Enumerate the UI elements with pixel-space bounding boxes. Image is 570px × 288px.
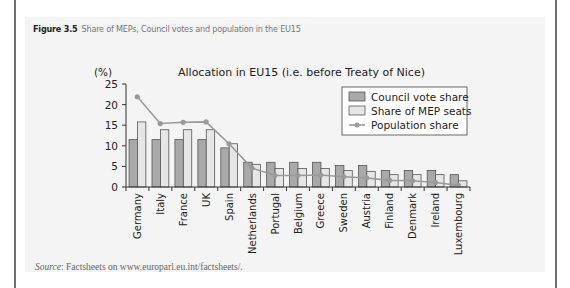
population-marker [295,173,300,178]
council-bar [152,140,160,187]
x-category-label: UK [201,193,212,207]
legend-swatch-council [349,92,365,101]
source-label: Source [35,262,61,272]
x-category-label: Germany [132,193,143,239]
population-marker [135,94,140,99]
mep-bar [137,122,145,187]
legend-label-mep: Share of MEP seats [371,105,471,117]
x-category-label: Belgium [293,193,304,234]
legend: Council vote shareShare of MEP seatsPopu… [342,87,471,135]
population-marker [387,178,392,183]
population-marker [433,180,438,185]
x-category-label: France [178,193,189,226]
legend-label-council: Council vote share [371,91,469,103]
legend-label-population: Population share [371,119,459,131]
x-category-label: Denmark [407,193,418,239]
x-category-label: Spain [224,193,235,221]
source-note: Source: Factsheets on www.europarl.eu.in… [35,262,243,272]
population-marker [226,141,231,146]
x-category-label: Netherlands [247,193,258,254]
y-tick-label: 20 [105,99,118,111]
council-bar [129,140,137,187]
council-bar [198,140,206,187]
council-bar [221,148,229,187]
x-category-label: Portugal [270,193,281,234]
legend-swatch-mep [349,106,365,115]
x-category-label: Greece [315,193,326,229]
mep-bar [206,130,214,187]
population-marker [249,165,254,170]
chart-title: Allocation in EU15 (i.e. before Treaty o… [178,66,425,79]
mep-bar [298,168,306,187]
x-category-label: Luxembourg [453,193,464,255]
y-tick-label: 0 [111,181,118,193]
population-marker [341,174,346,179]
y-tick-label: 5 [111,160,118,172]
mep-bar [321,168,329,187]
population-marker [410,178,415,183]
population-marker [364,175,369,180]
population-marker [272,173,277,178]
population-marker [203,119,208,124]
source-text: : Factsheets on www.europarl.eu.int/fact… [61,262,243,272]
mep-bar [183,130,191,187]
mep-bar [275,168,283,187]
x-category-label: Austria [361,193,372,228]
x-category-label: Ireland [430,193,441,228]
population-marker [318,172,323,177]
x-category-label: Sweden [338,193,349,233]
population-marker [181,120,186,125]
population-marker [158,121,163,126]
y-axis-label: (%) [94,66,112,78]
y-tick-label: 10 [105,140,118,152]
council-bar [175,140,183,187]
x-category-label: Finland [384,193,395,229]
mep-bar [160,130,168,187]
legend-marker-population [355,123,360,128]
x-category-label: Italy [155,193,166,215]
mep-bar [229,144,237,187]
y-tick-label: 15 [105,119,118,131]
y-tick-label: 25 [105,78,118,90]
